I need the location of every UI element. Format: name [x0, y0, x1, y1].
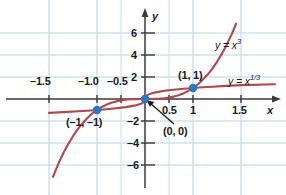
- x-tick-label-1.5: 1.5: [232, 105, 247, 116]
- x-tick-label-0.5: 0.5: [162, 105, 177, 116]
- y-axis-label: y: [152, 11, 158, 22]
- y-tick-label--2: –2: [127, 116, 139, 127]
- y-tick-label--6: –6: [127, 160, 139, 171]
- x-tick-label--1.5: –1.5: [30, 76, 51, 87]
- series-label-cubic-exponent: 3: [237, 37, 241, 46]
- point-label-origin: (0, 0): [163, 126, 187, 137]
- y-tick-label-2: 2: [131, 72, 137, 83]
- point-label-one-one: (1, 1): [178, 70, 202, 81]
- series-label-cube-root-exponent: 1/3: [250, 73, 260, 82]
- point-origin: [141, 95, 149, 103]
- x-tick-label-1: 1: [190, 105, 196, 116]
- y-tick-label-4: 4: [131, 50, 137, 61]
- graph-figure: –1.5 –1.0 –0.5 0.5 1 1.5 6 4 2 –2 –4 –6 …: [0, 0, 286, 195]
- point-neg-one-neg-one: [93, 106, 101, 114]
- y-tick-label--4: –4: [127, 138, 139, 149]
- series-label-cube-root: y = x1/3: [228, 74, 260, 86]
- function-graph-svg: [0, 0, 286, 195]
- point-one-one: [189, 84, 197, 92]
- series-label-cubic: y = x3: [215, 38, 241, 50]
- x-tick-label--0.5: –0.5: [107, 76, 128, 87]
- point-label-neg-one-neg-one: (–1, –1): [66, 117, 102, 128]
- x-tick-label--1.0: –1.0: [78, 76, 99, 87]
- series-label-cubic-text: y = x: [215, 39, 237, 51]
- x-axis-label: x: [267, 105, 273, 116]
- y-tick-label-6: 6: [131, 28, 137, 39]
- series-label-cube-root-text: y = x: [228, 75, 250, 87]
